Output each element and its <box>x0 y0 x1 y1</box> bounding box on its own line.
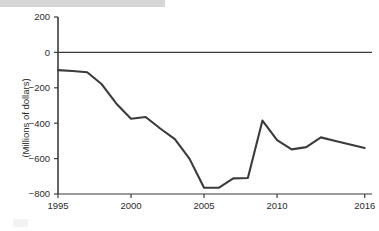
data-series-line <box>58 70 365 188</box>
x-axis-tick-group: 19952000200520102016 <box>47 194 375 211</box>
y-axis-tick-group: 2000−200−400−600−800 <box>29 11 58 199</box>
x-axis-tick-label: 2005 <box>193 200 214 211</box>
y-axis-tick-label: 0 <box>45 47 50 58</box>
y-axis-tick-label: 200 <box>34 11 50 22</box>
x-axis-tick-label: 2016 <box>354 200 375 211</box>
y-axis-tick-label: −200 <box>29 82 50 93</box>
x-axis-tick-label: 2000 <box>120 200 141 211</box>
line-chart: 2000−200−400−600−800 1995200020052010201… <box>0 0 379 231</box>
y-axis-title: (Millions of dollars) <box>20 78 31 157</box>
y-axis-tick-label: −400 <box>29 118 50 129</box>
y-axis-tick-label: −600 <box>29 153 50 164</box>
chart-container: 2000−200−400−600−800 1995200020052010201… <box>0 0 379 231</box>
y-axis-tick-label: −800 <box>29 188 50 199</box>
x-axis-tick-label: 2010 <box>266 200 287 211</box>
x-axis-tick-label: 1995 <box>47 200 68 211</box>
